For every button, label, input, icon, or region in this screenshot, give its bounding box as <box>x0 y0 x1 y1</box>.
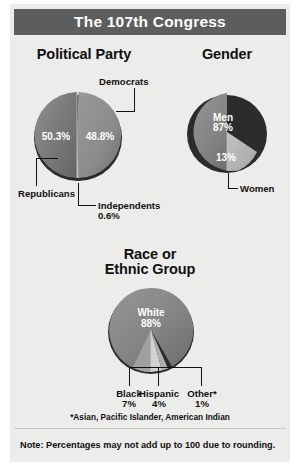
race-other-value: 1% <box>180 398 224 409</box>
political-party-democrats-value: 48.8% <box>80 131 120 142</box>
section-title-gender: Gender <box>172 47 282 62</box>
democrats-leader-horizontal <box>116 111 135 112</box>
page-title: The 107th Congress <box>14 9 286 35</box>
other-leader-vertical <box>201 367 202 386</box>
race-white-value: 88% <box>126 318 176 329</box>
republicans-leader-horizontal <box>36 158 58 159</box>
pie-chart-gender <box>185 90 271 176</box>
note-divider <box>14 428 286 429</box>
pie-chart-race <box>106 286 198 378</box>
women-leader-horizontal <box>228 188 238 189</box>
black-leader-vertical <box>129 367 130 386</box>
infographic-root: The 107th Congress Political Party <box>0 0 300 466</box>
section-title-race-line1: Race or <box>60 247 240 262</box>
political-party-independents-value: 0.6% <box>98 210 120 221</box>
political-party-democrats-label: Democrats <box>99 76 149 87</box>
gender-men-value: 87% <box>198 122 248 133</box>
rounding-note: Note: Percentages may not add up to 100 … <box>20 440 275 450</box>
democrats-leader-vertical <box>134 88 135 112</box>
race-pie-svg <box>106 286 198 378</box>
independents-leader-vertical <box>78 183 79 206</box>
political-party-republicans-label: Republicans <box>18 188 75 199</box>
gender-women-label: Women <box>240 183 274 194</box>
republicans-leader-vertical <box>36 158 37 186</box>
section-title-political-party: Political Party <box>14 47 154 62</box>
gender-women-value: 13% <box>206 152 246 163</box>
section-title-race-line2: Ethnic Group <box>60 262 240 277</box>
political-party-republicans-value: 50.3% <box>36 131 76 142</box>
independents-leader-horizontal <box>78 205 96 206</box>
women-leader-vertical <box>228 173 229 189</box>
hispanic-leader-vertical <box>158 367 159 386</box>
gender-pie-svg <box>185 90 271 176</box>
black-hispanic-leader-horizontal <box>129 367 159 368</box>
race-footnote: *Asian, Pacific Islander, American India… <box>30 412 270 422</box>
hispanic-other-leader-horizontal <box>158 367 202 368</box>
race-hispanic-value: 4% <box>131 398 187 409</box>
race-white-label: White <box>126 307 176 318</box>
